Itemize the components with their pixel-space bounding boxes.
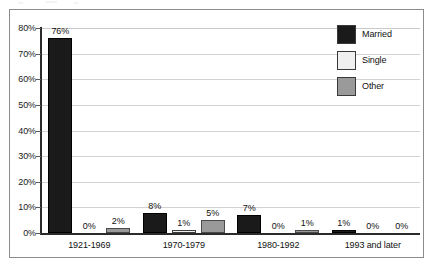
bar-married-0: [48, 38, 72, 233]
legend-label: Married: [362, 29, 392, 40]
y-axis-tick: [36, 54, 41, 55]
gridline: [42, 207, 420, 208]
legend-item-single: Single: [337, 51, 417, 71]
gridline: [42, 105, 420, 106]
x-axis-line: [42, 233, 420, 235]
y-axis-tick: [36, 156, 41, 157]
bar-value-label: 1%: [295, 218, 319, 228]
y-axis-tick-label: 0%: [2, 228, 36, 238]
bar-married-1: [143, 213, 167, 234]
bar-value-label: 0%: [266, 221, 290, 231]
bar-other-1: [201, 220, 225, 233]
chart-figure: 0%10%20%30%40%50%60%70%80% MarriedSingle…: [0, 0, 434, 267]
bar-value-label: 0%: [361, 221, 385, 231]
y-axis-tick-label: 20%: [2, 177, 36, 187]
bar-other-0: [106, 228, 130, 233]
bar-value-label: 7%: [237, 203, 261, 213]
bar-single-1: [172, 230, 196, 233]
y-axis-tick: [36, 79, 41, 80]
bar-value-label: 1%: [172, 218, 196, 228]
y-axis-tick-label: 40%: [2, 126, 36, 136]
bar-married-2: [237, 215, 261, 233]
y-axis-tick: [36, 182, 41, 183]
bar-married-3: [332, 230, 356, 233]
y-axis-tick: [36, 233, 41, 234]
y-axis-tick-label: 70%: [2, 49, 36, 59]
legend-swatch-other: [337, 77, 356, 96]
y-axis-labels: 0%10%20%30%40%50%60%70%80%: [0, 0, 36, 267]
bar-value-label: 2%: [106, 216, 130, 226]
y-axis-tick-label: 30%: [2, 151, 36, 161]
gridline: [42, 156, 420, 157]
y-axis-tick-label: 10%: [2, 202, 36, 212]
y-axis-tick: [36, 207, 41, 208]
x-axis-category-label: 1921-1969: [42, 240, 137, 251]
bar-value-label: 1%: [332, 218, 356, 228]
legend-swatch-married: [337, 25, 356, 44]
x-axis-category-label: 1980-1992: [231, 240, 326, 251]
bar-value-label: 8%: [143, 201, 167, 211]
bar-other-2: [295, 230, 319, 233]
y-axis-tick-label: 50%: [2, 100, 36, 110]
chart-legend: MarriedSingleOther: [337, 25, 417, 101]
y-axis-tick: [36, 105, 41, 106]
scan-artifact: [46, 1, 57, 3]
gridline: [42, 182, 420, 183]
y-axis-tick-label: 80%: [2, 23, 36, 33]
legend-label: Single: [362, 55, 386, 66]
legend-item-married: Married: [337, 25, 417, 45]
legend-swatch-single: [337, 51, 356, 70]
legend-item-other: Other: [337, 77, 417, 97]
y-axis-tick: [36, 28, 41, 29]
x-axis-category-label: 1993 and later: [326, 240, 421, 251]
x-axis-category-label: 1970-1979: [137, 240, 232, 251]
gridline: [42, 131, 420, 132]
scan-artifact: [74, 2, 78, 4]
legend-label: Other: [362, 81, 384, 92]
bar-value-label: 76%: [48, 26, 72, 36]
bar-value-label: 0%: [77, 221, 101, 231]
bar-value-label: 5%: [201, 208, 225, 218]
y-axis-tick: [36, 131, 41, 132]
y-axis-tick-label: 60%: [2, 74, 36, 84]
bar-value-label: 0%: [390, 221, 414, 231]
